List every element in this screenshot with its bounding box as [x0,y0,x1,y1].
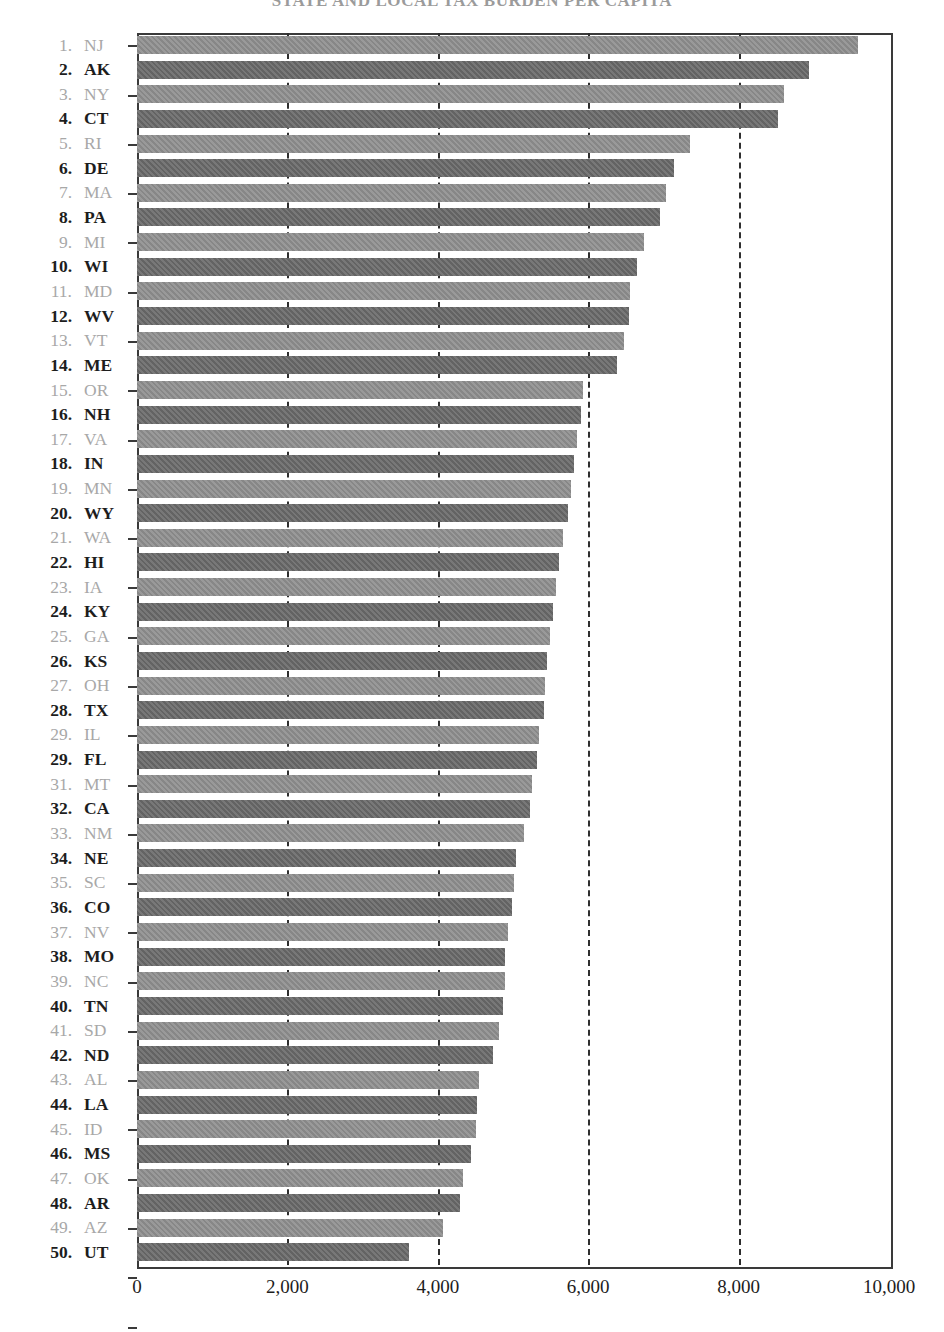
bar-VT [137,332,624,350]
bar-ID [137,1120,476,1138]
y-tick-WI [128,489,137,491]
bar-row [137,205,889,230]
bar-MT [137,775,532,793]
y-axis-label-CT: 4.CT [0,107,128,132]
rank-number: 45. [28,1121,72,1139]
bar-row [137,895,889,920]
bar-row [137,920,889,945]
state-abbreviation: FL [84,751,128,769]
bar-row [137,1166,889,1191]
bar-MO [137,948,505,966]
bar-row [137,1117,889,1142]
rank-number: 24. [28,603,72,621]
rank-number: 5. [28,135,72,153]
rank-number: 29. [28,751,72,769]
y-axis-label-WY: 20.WY [0,501,128,526]
bar-chart: STATE AND LOCAL TAX BURDEN PER CAPITA 1.… [0,0,944,1332]
bar-NE [137,849,516,867]
y-tick-WV [128,587,137,589]
y-axis-label-AZ: 49.AZ [0,1216,128,1241]
state-abbreviation: OK [84,1170,128,1188]
state-abbreviation: WV [84,308,128,326]
bar-SC [137,874,514,892]
bar-row [137,156,889,181]
y-axis-label-TN: 40.TN [0,994,128,1019]
state-abbreviation: CO [84,899,128,917]
bar-SD [137,1022,499,1040]
y-axis-label-OK: 47.OK [0,1166,128,1191]
bar-row [137,1068,889,1093]
state-abbreviation: UT [84,1244,128,1262]
y-axis-label-MD: 11.MD [0,279,128,304]
x-tick-label-8000: 8,000 [717,1276,760,1298]
bar-NM [137,824,524,842]
bar-row [137,477,889,502]
state-abbreviation: AR [84,1195,128,1213]
rank-number: 6. [28,160,72,178]
y-axis-labels: 1.NJ2.AK3.NY4.CT5.RI6.DE7.MA8.PA9.MI10.W… [0,33,128,1265]
y-axis-label-PA: 8.PA [0,205,128,230]
state-abbreviation: TX [84,702,128,720]
state-abbreviation: CT [84,110,128,128]
bar-row [137,600,889,625]
y-tick-HI [128,1080,137,1082]
bar-MD [137,282,630,300]
rank-number: 3. [28,86,72,104]
state-abbreviation: SD [84,1022,128,1040]
y-tick-GA [128,1228,137,1230]
state-abbreviation: WY [84,505,128,523]
y-axis-label-WA: 21.WA [0,526,128,551]
state-abbreviation: ND [84,1047,128,1065]
rank-number: 14. [28,357,72,375]
bar-CA [137,800,530,818]
y-axis-label-NM: 33.NM [0,821,128,846]
bar-row [137,526,889,551]
bar-OK [137,1169,463,1187]
bar-row [137,452,889,477]
bar-AZ [137,1219,443,1237]
y-axis-label-IA: 23.IA [0,575,128,600]
state-abbreviation: NV [84,924,128,942]
bar-AR [137,1194,460,1212]
state-abbreviation: ME [84,357,128,375]
bar-MI [137,233,644,251]
state-abbreviation: SC [84,874,128,892]
bar-KS [137,652,547,670]
y-axis-label-IL: 29.IL [0,723,128,748]
chart-title: STATE AND LOCAL TAX BURDEN PER CAPITA [0,0,944,9]
bar-row [137,871,889,896]
bar-WY [137,504,568,522]
state-abbreviation: NE [84,850,128,868]
rank-number: 38. [28,948,72,966]
y-tick-WY [128,982,137,984]
y-axis-label-AL: 43.AL [0,1068,128,1093]
y-axis-label-UT: 50.UT [0,1240,128,1265]
y-axis-label-NH: 16.NH [0,403,128,428]
state-abbreviation: RI [84,135,128,153]
bar-TN [137,997,503,1015]
x-tick-label-10000: 10,000 [863,1276,915,1298]
state-abbreviation: AZ [84,1219,128,1237]
y-axis-label-SD: 41.SD [0,1019,128,1044]
state-abbreviation: PA [84,209,128,227]
bar-row [137,1043,889,1068]
y-axis-label-FL: 29.FL [0,748,128,773]
rank-number: 22. [28,554,72,572]
bar-row [137,649,889,674]
y-axis-label-DE: 6.DE [0,156,128,181]
bar-UT [137,1243,409,1261]
y-tick-OR [128,735,137,737]
y-axis-label-MA: 7.MA [0,181,128,206]
y-tick-OH [128,1327,137,1329]
rank-number: 25. [28,628,72,646]
state-abbreviation: NC [84,973,128,991]
y-axis-label-HI: 22.HI [0,550,128,575]
bar-CT [137,110,778,128]
bar-NC [137,972,505,990]
state-abbreviation: MA [84,184,128,202]
rank-number: 47. [28,1170,72,1188]
y-axis-label-VA: 17.VA [0,427,128,452]
y-tick-MN [128,932,137,934]
bar-row [137,945,889,970]
y-tick-VA [128,834,137,836]
